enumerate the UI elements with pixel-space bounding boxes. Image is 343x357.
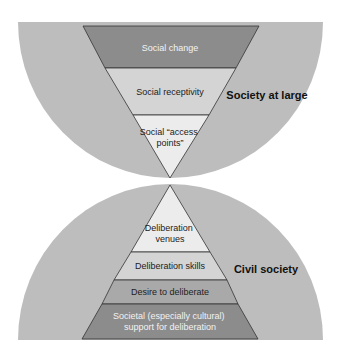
label-deliberation-skills: Deliberation skills bbox=[135, 261, 206, 271]
section-label-society-at-large: Society at large bbox=[226, 89, 307, 101]
label-social-receptivity: Social receptivity bbox=[136, 87, 204, 97]
label-social-change: Social change bbox=[142, 43, 199, 53]
section-label-civil-society: Civil society bbox=[234, 263, 299, 275]
label-desire-to-deliberate: Desire to deliberate bbox=[131, 287, 209, 297]
diagram-canvas: Social change Social receptivity Social … bbox=[0, 0, 343, 357]
label-societal-support: Societal (especially cultural) support f… bbox=[113, 311, 227, 332]
